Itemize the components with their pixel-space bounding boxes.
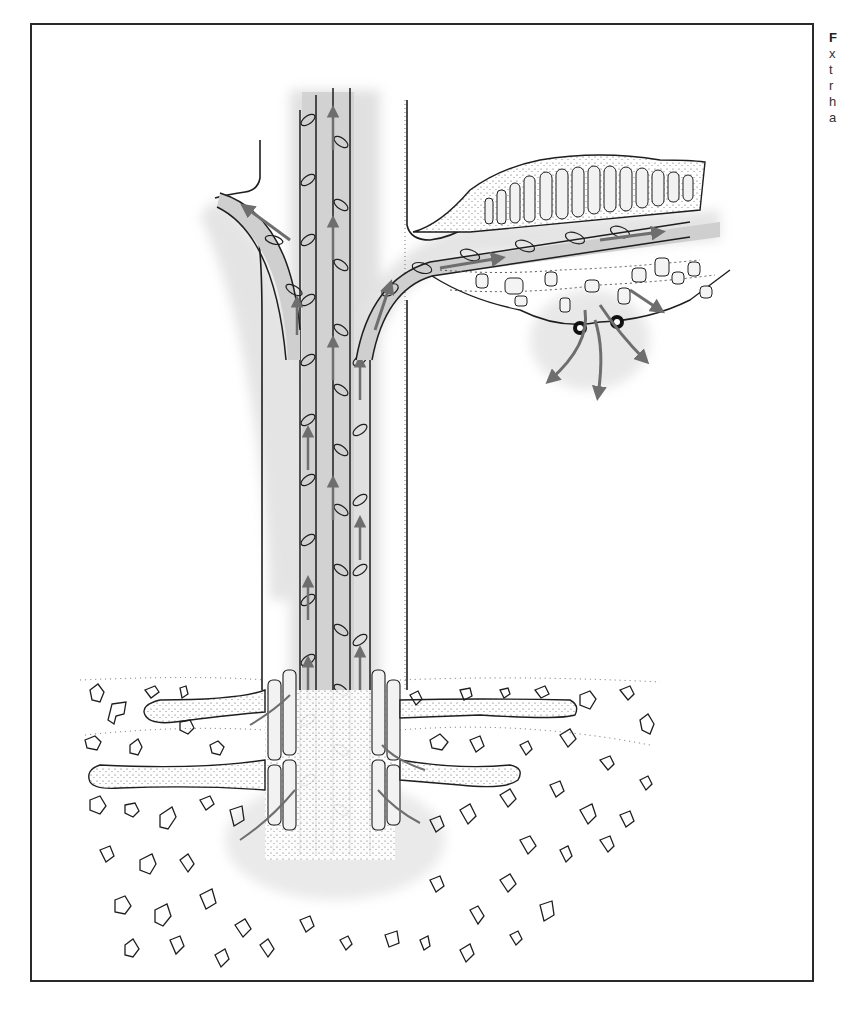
caption-line-2: x [829,46,841,62]
caption-line-3: t [829,62,841,78]
caption-line-4: r [829,78,841,94]
caption-line-5: h [829,94,841,110]
vascular-transport-illustration [0,0,841,1014]
figure-caption-fragment: F x t r h a [829,30,841,126]
caption-line-1: F [829,30,841,46]
caption-line-6: a [829,110,841,126]
root-zone [89,670,577,860]
